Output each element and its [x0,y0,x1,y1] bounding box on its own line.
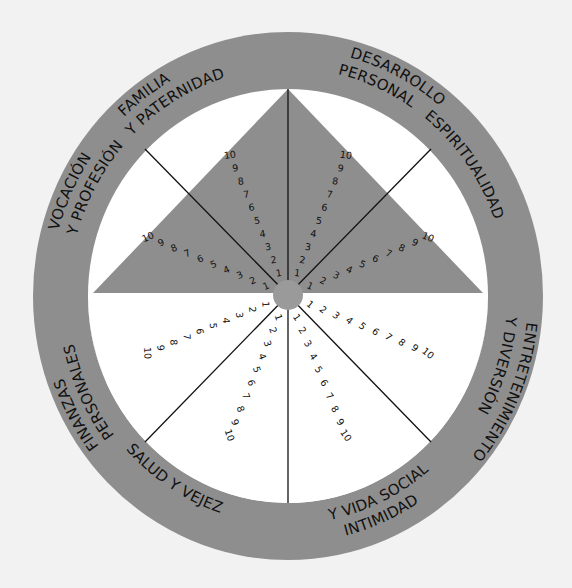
scale-value: 2 [247,306,258,313]
scale-value: 7 [181,333,192,340]
scale-value: 3 [234,312,245,319]
scale-value: 6 [195,328,206,335]
scale-value: 5 [208,323,219,330]
scale-value: 10 [339,149,352,162]
scale-value: 1 [260,301,271,308]
scale-value: 9 [155,344,166,351]
scale-value: 10 [223,149,236,162]
scale-value: 8 [168,339,179,346]
scale-value: 4 [221,317,232,324]
scale-value: 10 [142,347,154,360]
life-wheel-diagram: 1234567891012345678910123456789101234567… [0,0,572,588]
center-hub [273,280,303,310]
